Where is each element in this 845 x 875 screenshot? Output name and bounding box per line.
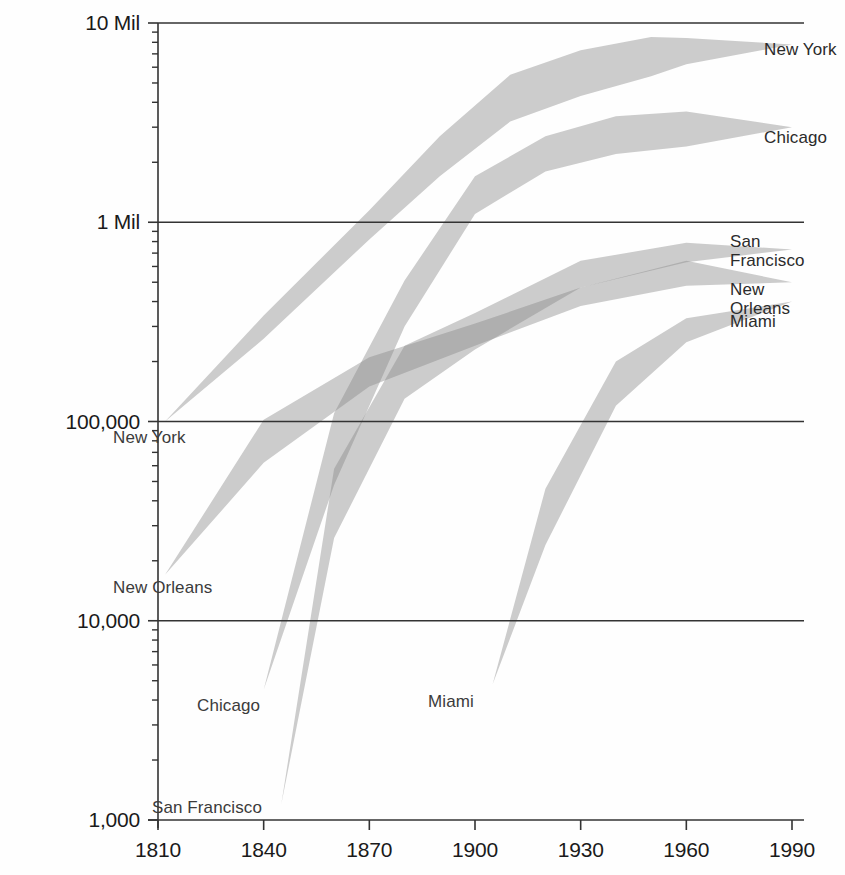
x-tick-label-1930: 1930 (558, 838, 604, 862)
x-tick-label-1990: 1990 (769, 838, 815, 862)
series-end-label-line: San (730, 232, 805, 251)
series-end-label-miami: Miami (730, 312, 776, 331)
series-end-label-line: Francisco (730, 251, 805, 270)
x-tick-label-1810: 1810 (135, 838, 181, 862)
series-end-label-line: Miami (730, 312, 776, 331)
series-start-label-san-francisco: San Francisco (152, 798, 262, 817)
x-tick-label-1840: 1840 (241, 838, 287, 862)
series-end-label-line: Chicago (764, 128, 827, 147)
series-end-label-line: New (730, 280, 790, 299)
series-start-label-new-orleans: New Orleans (113, 578, 212, 597)
series-end-label-line: New York (764, 40, 837, 59)
series-band-new-york (165, 37, 792, 421)
x-tick-label-1900: 1900 (452, 838, 498, 862)
x-tick-label-1870: 1870 (346, 838, 392, 862)
y-tick-label-10000000: 10 Mil (0, 11, 140, 35)
series-start-label-miami: Miami (428, 692, 474, 711)
series-end-label-new-york: New York (764, 40, 837, 59)
y-tick-label-1000000: 1 Mil (0, 210, 140, 234)
y-tick-label-1000: 1,000 (0, 808, 140, 832)
series-band-miami (493, 302, 792, 685)
series-start-label-new-york: New York (113, 428, 186, 447)
series-band-new-orleans (165, 261, 792, 575)
series-end-label-chicago: Chicago (764, 128, 827, 147)
y-tick-label-10000: 10,000 (0, 609, 140, 633)
series-bands-group (165, 37, 792, 804)
series-start-label-chicago: Chicago (197, 696, 260, 715)
population-chart: 10 Mil1 Mil100,00010,0001,000 1810184018… (0, 0, 845, 875)
x-tick-label-1960: 1960 (663, 838, 709, 862)
series-end-label-san-francisco: SanFrancisco (730, 232, 805, 270)
